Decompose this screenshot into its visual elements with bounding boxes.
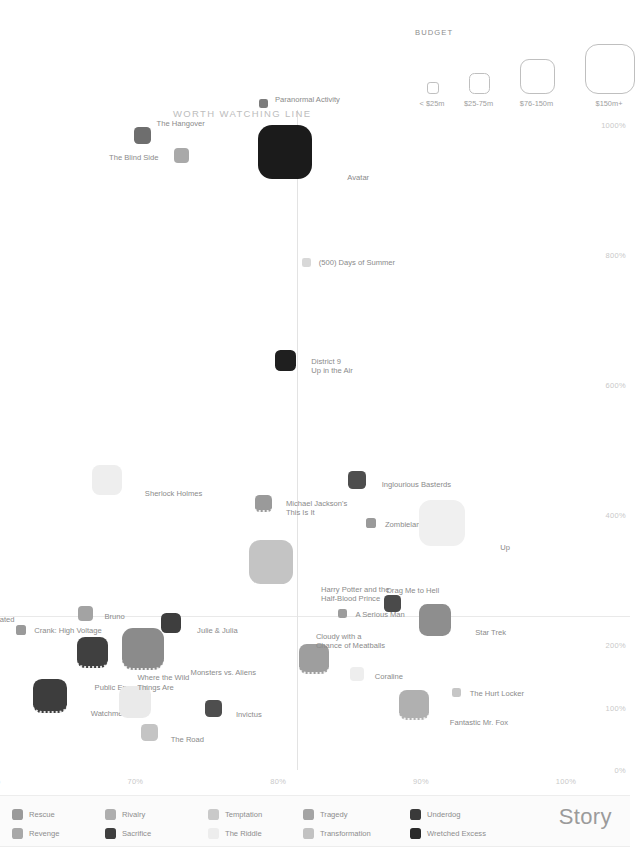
- data-point-label: Harry Potter and the Half-Blood Prince: [321, 585, 389, 604]
- x-axis-tick: 90%: [413, 777, 429, 786]
- story-legend-label: Temptation: [225, 809, 262, 820]
- story-legend-swatch: [12, 809, 23, 820]
- data-point-bubble[interactable]: [92, 465, 122, 495]
- data-point-label: The Hurt Locker: [470, 689, 524, 698]
- data-point-bubble[interactable]: [419, 604, 451, 636]
- story-legend-swatch: [303, 828, 314, 839]
- story-legend-swatch: [12, 828, 23, 839]
- budget-size-label: $76-150m: [507, 99, 567, 108]
- budget-size-label: $150m+: [579, 99, 639, 108]
- data-point-label: Inglourious Basterds: [382, 480, 451, 489]
- data-point-bubble[interactable]: [338, 609, 347, 618]
- budget-size-swatch: [427, 82, 439, 94]
- data-point-label: Bruno: [104, 612, 124, 621]
- data-point-bubble[interactable]: [399, 690, 429, 720]
- data-point-bubble[interactable]: [258, 125, 312, 179]
- story-legend-swatch: [208, 809, 219, 820]
- y-axis-tick: 400%: [606, 511, 626, 520]
- vertical-divider: [297, 110, 298, 770]
- y-axis-tick: 0%: [615, 766, 626, 775]
- budget-legend-title: BUDGET: [415, 28, 453, 37]
- data-point-label: Coraline: [375, 672, 403, 681]
- data-point-bubble[interactable]: [255, 495, 272, 512]
- data-point-label: Avatar: [347, 173, 369, 182]
- budget-size-label: $25-75m: [449, 99, 509, 108]
- story-legend-label: Revenge: [29, 828, 59, 839]
- data-point-label: The Blind Side: [109, 153, 158, 162]
- data-point-bubble[interactable]: [161, 613, 181, 633]
- data-point-label: Cloudy with a Chance of Meatballs: [316, 632, 385, 651]
- data-point-label: (500) Days of Summer: [319, 258, 395, 267]
- data-point-bubble[interactable]: [141, 724, 158, 741]
- data-point-label: It's Complicated: [0, 615, 15, 624]
- data-point-bubble[interactable]: [33, 679, 67, 713]
- y-axis-tick: 800%: [606, 251, 626, 260]
- data-point-bubble[interactable]: [384, 595, 401, 612]
- story-legend-swatch: [303, 809, 314, 820]
- story-legend-label: The Riddle: [225, 828, 262, 839]
- data-point-label: Star Trek: [475, 628, 506, 637]
- gridline-horizontal: [0, 616, 630, 617]
- story-legend-label: Rescue: [29, 809, 55, 820]
- data-point-label: Crank: High Voltage: [34, 626, 102, 635]
- data-point-label: Monsters vs. Aliens: [191, 668, 256, 677]
- data-point-label: The Road: [171, 735, 204, 744]
- y-axis-tick: 1000%: [601, 121, 626, 130]
- data-point-bubble[interactable]: [348, 471, 366, 489]
- story-legend-swatch: [105, 828, 116, 839]
- story-legend-swatch: [208, 828, 219, 839]
- budget-size-swatch: [469, 73, 490, 94]
- x-axis-tick: 70%: [127, 777, 143, 786]
- data-point-label: Sherlock Holmes: [145, 489, 202, 498]
- budget-size-legend: BUDGET < $25m$25-75m$76-150m$150m+: [415, 28, 615, 120]
- story-color-legend: RescueRevengeRivalrySacrificeTemptationT…: [0, 795, 630, 847]
- data-point-label: Fantastic Mr. Fox: [450, 718, 508, 727]
- story-legend-heading: Story: [559, 804, 612, 830]
- story-legend-swatch: [410, 809, 421, 820]
- x-axis-tick: 60%: [0, 777, 1, 786]
- y-axis-tick: 200%: [606, 641, 626, 650]
- worth-watching-line-label: WORTH WATCHING LINE: [173, 108, 311, 119]
- data-point-bubble[interactable]: [259, 99, 268, 108]
- story-legend-label: Sacrifice: [122, 828, 151, 839]
- story-legend-label: Rivalry: [122, 809, 145, 820]
- data-point-label: Up: [500, 543, 510, 552]
- data-point-bubble[interactable]: [275, 350, 296, 371]
- story-legend-label: Wretched Excess: [427, 828, 486, 839]
- y-axis-tick: 100%: [606, 704, 626, 713]
- data-point-bubble[interactable]: [16, 625, 26, 635]
- data-point-label: Invictus: [236, 710, 262, 719]
- data-point-label: District 9 Up in the Air: [311, 357, 352, 376]
- data-point-bubble[interactable]: [249, 540, 293, 584]
- data-point-bubble[interactable]: [174, 148, 189, 163]
- story-legend-swatch: [410, 828, 421, 839]
- story-legend-label: Transformation: [320, 828, 371, 839]
- data-point-bubble[interactable]: [350, 667, 364, 681]
- data-point-bubble[interactable]: [134, 127, 151, 144]
- story-legend-label: Tragedy: [320, 809, 348, 820]
- data-point-label: Julie & Julia: [197, 626, 238, 635]
- data-point-label: Paranormal Activity: [275, 95, 340, 104]
- y-axis-tick: 600%: [606, 381, 626, 390]
- data-point-bubble[interactable]: [122, 628, 164, 670]
- data-point-bubble[interactable]: [205, 700, 222, 717]
- data-point-label: The Hangover: [157, 119, 205, 128]
- data-point-bubble[interactable]: [419, 500, 465, 546]
- story-legend-label: Underdog: [427, 809, 460, 820]
- data-point-bubble[interactable]: [302, 258, 311, 267]
- data-point-label: Michael Jackson's This Is It: [286, 499, 347, 518]
- data-point-bubble[interactable]: [452, 688, 461, 697]
- x-axis-tick: 80%: [270, 777, 286, 786]
- data-point-bubble[interactable]: [77, 637, 108, 668]
- x-axis-tick: 100%: [556, 777, 576, 786]
- data-point-label: Drag Me to Hell: [386, 586, 439, 595]
- data-point-bubble[interactable]: [366, 518, 376, 528]
- data-point-bubble[interactable]: [78, 606, 93, 621]
- data-point-label: Where the Wild Things Are: [137, 673, 189, 692]
- budget-size-swatch: [520, 59, 555, 94]
- story-legend-swatch: [105, 809, 116, 820]
- budget-size-swatch: [585, 44, 635, 94]
